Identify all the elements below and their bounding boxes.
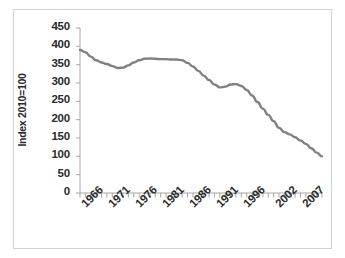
axis-lines — [80, 28, 322, 193]
y-tick-label: 0 — [38, 185, 70, 197]
y-axis-ticks — [76, 28, 80, 193]
y-tick-label: 50 — [38, 167, 70, 179]
y-tick-label: 350 — [38, 57, 70, 69]
y-tick-label: 250 — [38, 93, 70, 105]
y-tick-label: 200 — [38, 112, 70, 124]
data-series-line — [80, 50, 322, 156]
chart-figure: Index 2010=100 4504003503002502001501005… — [0, 0, 345, 258]
y-tick-label: 100 — [38, 148, 70, 160]
y-tick-label: 150 — [38, 130, 70, 142]
y-tick-label: 300 — [38, 75, 70, 87]
y-tick-label: 400 — [38, 38, 70, 50]
y-tick-label: 450 — [38, 20, 70, 32]
